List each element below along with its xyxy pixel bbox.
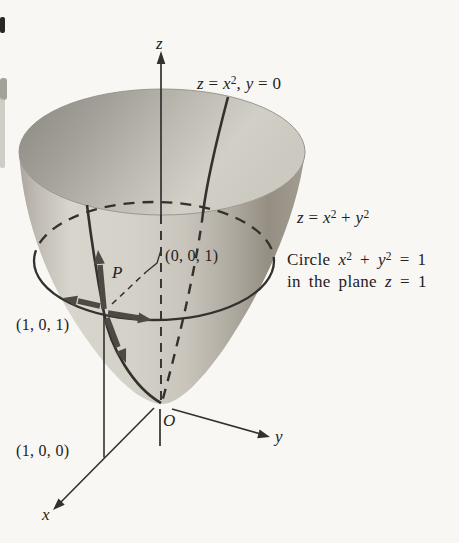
math-token: = — [304, 208, 323, 227]
y-axis-line — [172, 409, 259, 434]
math-token: x — [42, 505, 50, 524]
point-100-label: (1, 0, 0) — [16, 442, 69, 460]
math-token: = — [204, 74, 223, 93]
origin-label: O — [163, 411, 176, 431]
x-axis-line — [59, 408, 154, 504]
scan-artifact-streak-2 — [0, 98, 5, 168]
point-101-label: (1, 0, 1) — [16, 316, 69, 334]
math-token: = 1 — [392, 272, 427, 291]
figure-canvas: z z = x2, y = 0 z = x2 + y2 Circle x2 + … — [0, 0, 459, 543]
math-token: y — [378, 250, 386, 269]
math-token: z — [385, 272, 392, 291]
math-token: 2 — [331, 208, 337, 220]
point-p-label: P — [112, 263, 123, 283]
math-token: + — [352, 250, 378, 269]
circle-caption-line1: Circle x2 + y2 = 1 — [287, 250, 426, 270]
scan-artifact-streak — [0, 78, 7, 100]
math-token: = 0 — [254, 74, 282, 93]
surface-equation-label: z = x2 + y2 — [297, 208, 369, 228]
math-token: y — [246, 74, 254, 93]
math-token: (1, 0, 0) — [16, 442, 69, 459]
math-token: x — [223, 74, 231, 93]
math-token: in the plane — [287, 272, 385, 291]
math-token: x — [323, 208, 331, 227]
math-token: 2 — [386, 250, 392, 262]
math-token: O — [163, 411, 176, 430]
math-token: 2 — [346, 250, 352, 262]
math-token: = 1 — [392, 250, 427, 269]
math-token: y — [275, 427, 283, 446]
point-001-label: (0, 0, 1) — [165, 247, 218, 265]
math-token: z — [197, 74, 204, 93]
math-token: (1, 0, 1) — [16, 316, 69, 333]
x-axis-label: x — [42, 505, 50, 525]
z-axis-label: z — [156, 34, 163, 54]
y-axis-label: y — [275, 427, 283, 447]
paraboloid-opening — [19, 89, 305, 215]
math-token: (0, 0, 1) — [165, 247, 218, 264]
math-token: + — [337, 208, 356, 227]
math-token: z — [156, 34, 163, 53]
math-token: z — [297, 208, 304, 227]
math-token: P — [112, 263, 123, 282]
scan-artifact-mark — [0, 17, 5, 33]
y-axis-arrowhead — [257, 430, 270, 439]
parabola-equation-label: z = x2, y = 0 — [197, 74, 281, 94]
math-token: 2 — [363, 208, 369, 220]
math-token: Circle — [287, 250, 338, 269]
math-token: , — [237, 74, 246, 93]
math-token: 2 — [231, 74, 237, 86]
circle-caption-line2: in the plane z = 1 — [287, 272, 427, 292]
